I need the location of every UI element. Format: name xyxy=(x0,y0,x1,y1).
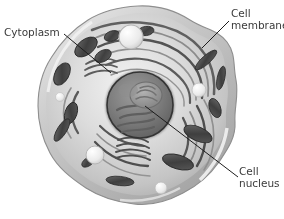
label-cell-nucleus: Cell nucleus xyxy=(239,166,280,189)
vesicle xyxy=(155,182,167,194)
figure-canvas: Cytoplasm Cell membrane Cell nucleus xyxy=(0,0,284,219)
label-cell-nucleus-line-2: nucleus xyxy=(239,178,280,190)
vesicle xyxy=(56,93,65,102)
label-cell-membrane-line-1: Cell xyxy=(231,8,284,20)
vesicle xyxy=(86,146,104,164)
label-cytoplasm-line-1: Cytoplasm xyxy=(4,27,60,39)
label-cell-nucleus-line-1: Cell xyxy=(239,166,280,178)
label-cytoplasm: Cytoplasm xyxy=(4,27,60,39)
vesicle xyxy=(119,25,143,49)
vesicle xyxy=(192,83,206,97)
label-cell-membrane: Cell membrane xyxy=(231,8,284,31)
label-cell-membrane-line-2: membrane xyxy=(231,20,284,32)
cell-nucleus-shape xyxy=(106,71,175,140)
